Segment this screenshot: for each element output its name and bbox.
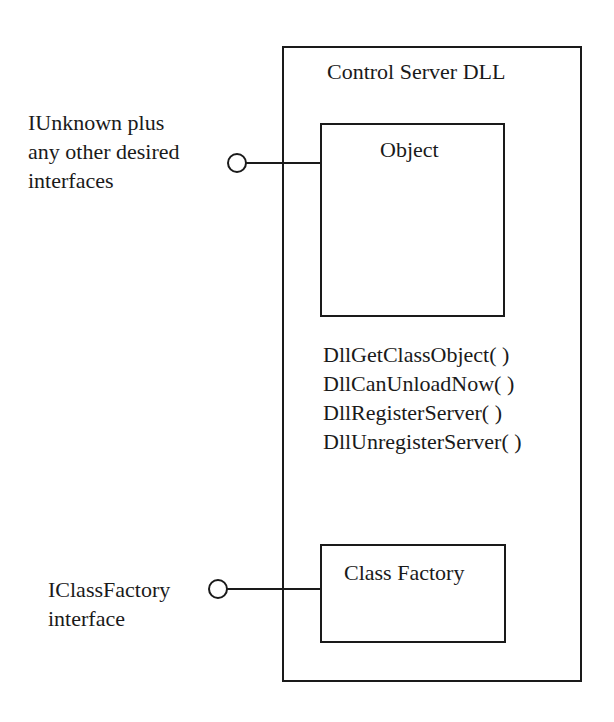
export-function-item: DllCanUnloadNow( ) [323,369,522,398]
interface-label-line: any other desired [28,137,180,166]
control-server-dll-title: Control Server DLL [327,57,505,86]
class-factory-box-label: Class Factory [344,558,464,587]
iunknown-interface-label: IUnknown plus any other desired interfac… [28,108,180,195]
interface-label-line: interfaces [28,166,180,195]
exported-functions-list: DllGetClassObject( ) DllCanUnloadNow( ) … [323,340,522,456]
interface-circle-icon [209,580,227,598]
export-function-item: DllRegisterServer( ) [323,398,522,427]
interface-label-line: IUnknown plus [28,108,180,137]
object-box-label: Object [380,135,439,164]
iclassfactory-interface-lollipop-icon [209,580,321,598]
export-function-item: DllUnregisterServer( ) [323,427,522,456]
iunknown-interface-lollipop-icon [228,154,321,172]
interface-circle-icon [228,154,246,172]
diagram-canvas: Control Server DLL Object DllGetClassObj… [0,0,614,722]
iclassfactory-interface-label: IClassFactory interface [48,575,170,633]
interface-label-line: interface [48,604,170,633]
export-function-item: DllGetClassObject( ) [323,340,522,369]
interface-label-line: IClassFactory [48,575,170,604]
